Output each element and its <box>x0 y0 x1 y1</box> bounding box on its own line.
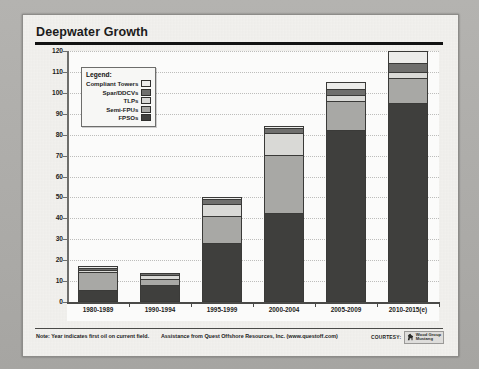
logo-line-2: Mustang <box>416 337 441 341</box>
stacked-bar[interactable] <box>264 126 304 302</box>
x-axis-tick-mark <box>439 302 440 307</box>
x-axis-label: 2010-2015(e) <box>377 306 439 313</box>
legend-item[interactable]: FPSOs <box>86 114 151 121</box>
footnote: Note: Year indicates first oil on curren… <box>36 333 338 339</box>
bar-segment[interactable] <box>203 205 241 217</box>
y-axis-tick-label: 90 <box>41 110 63 117</box>
y-axis-tick-label: 110 <box>41 68 63 75</box>
stacked-bar[interactable] <box>388 51 428 302</box>
y-axis-tick-label: 0 <box>41 298 63 305</box>
grid-line <box>67 197 439 198</box>
y-axis-tick-label: 50 <box>41 193 63 200</box>
wood-group-mustang-logo: Wood Group Mustang <box>404 331 444 344</box>
footnote-part-1: Note: Year indicates first oil on curren… <box>36 333 149 339</box>
bar-group[interactable] <box>264 51 304 302</box>
bar-segment[interactable] <box>203 244 241 301</box>
y-axis-tick-label: 20 <box>41 256 63 263</box>
chart-card: Deepwater Growth 01020304050607080901001… <box>22 14 459 357</box>
legend-item[interactable]: TLPs <box>86 97 151 104</box>
x-axis-label: 2005-2009 <box>315 306 377 313</box>
footnote-part-2: Assistance from Quest Offshore Resources… <box>161 333 338 339</box>
legend-color-swatch <box>141 106 151 113</box>
grid-line <box>67 177 439 178</box>
grid-line <box>67 239 439 240</box>
legend-item[interactable]: Semi-FPUs <box>86 106 151 113</box>
courtesy-block: COURTESY: Wood Group Mustang <box>371 331 444 344</box>
grid-line <box>67 218 439 219</box>
y-axis-line <box>67 51 69 303</box>
bar-segment[interactable] <box>389 79 427 104</box>
x-axis-label: 2000-2004 <box>253 306 315 313</box>
chart-plot-area: 0102030405060708090100110120 1980-198919… <box>67 51 439 321</box>
legend-color-swatch <box>141 114 151 121</box>
courtesy-label: COURTESY: <box>371 335 401 340</box>
y-axis-tick-label: 30 <box>41 235 63 242</box>
bar-segment[interactable] <box>327 102 365 131</box>
x-axis-label: 1990-1994 <box>129 306 191 313</box>
stacked-bar[interactable] <box>202 197 242 302</box>
y-axis-tick-label: 40 <box>41 214 63 221</box>
bar-segment[interactable] <box>265 156 303 214</box>
x-axis-label: 1995-1999 <box>191 306 253 313</box>
bar-segment[interactable] <box>389 104 427 301</box>
bar-segment[interactable] <box>327 131 365 301</box>
bar-segment[interactable] <box>265 134 303 157</box>
bar-group[interactable] <box>388 51 428 302</box>
legend-color-swatch <box>141 80 151 87</box>
legend-title: Legend: <box>86 71 151 78</box>
grid-line <box>67 156 439 157</box>
grid-line <box>67 51 439 52</box>
footer-divider <box>35 328 443 329</box>
page-title: Deepwater Growth <box>36 25 148 39</box>
y-axis-tick-label: 70 <box>41 152 63 159</box>
logo-wordmark: Wood Group Mustang <box>416 333 441 342</box>
grid-line <box>67 281 439 282</box>
horse-logo-icon <box>407 333 414 341</box>
legend-item[interactable]: Spar/DDCVs <box>86 89 151 96</box>
legend-item-label: TLPs <box>123 97 138 104</box>
bar-segment[interactable] <box>389 64 427 72</box>
title-divider <box>35 42 443 45</box>
legend-item-label: Semi-FPUs <box>106 106 138 113</box>
legend-color-swatch <box>141 89 151 96</box>
y-axis-tick-label: 120 <box>41 47 63 54</box>
legend-items: Compliant TowersSpar/DDCVsTLPsSemi-FPUsF… <box>86 80 151 121</box>
x-axis-label: 1980-1989 <box>67 306 129 313</box>
legend-item-label: FPSOs <box>118 114 138 121</box>
stacked-bar[interactable] <box>326 82 366 302</box>
chart-legend: Legend: Compliant TowersSpar/DDCVsTLPsSe… <box>81 67 156 127</box>
legend-item[interactable]: Compliant Towers <box>86 80 151 87</box>
legend-item-label: Compliant Towers <box>86 80 138 87</box>
stacked-bar[interactable] <box>78 266 118 302</box>
bar-segment[interactable] <box>141 286 179 301</box>
bar-segment[interactable] <box>203 217 241 244</box>
grid-line <box>67 135 439 136</box>
legend-color-swatch <box>141 97 151 104</box>
y-axis-tick-label: 100 <box>41 89 63 96</box>
stacked-bar[interactable] <box>140 273 180 302</box>
bar-group[interactable] <box>326 51 366 302</box>
bar-segment[interactable] <box>79 291 117 301</box>
y-axis-tick-label: 80 <box>41 131 63 138</box>
bar-segment[interactable] <box>79 273 117 291</box>
screenshot-canvas: Deepwater Growth 01020304050607080901001… <box>0 0 479 369</box>
bar-segment[interactable] <box>389 52 427 64</box>
y-axis-tick-label: 10 <box>41 277 63 284</box>
bar-segment[interactable] <box>265 214 303 301</box>
bar-group[interactable] <box>202 51 242 302</box>
y-axis-tick-label: 60 <box>41 173 63 180</box>
grid-line <box>67 260 439 261</box>
legend-item-label: Spar/DDCVs <box>102 89 138 96</box>
